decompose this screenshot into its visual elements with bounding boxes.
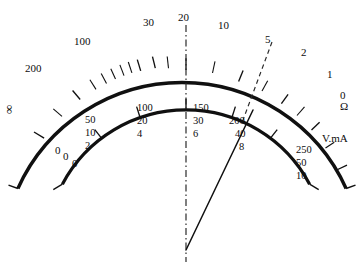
ohm-label-5: 5 <box>265 33 271 45</box>
vma-label-150: 150 <box>193 101 209 114</box>
ohm-label-100: 100 <box>74 35 91 47</box>
vma-label-10b: 10 <box>296 169 312 182</box>
vma-group-200: 200 40 8 <box>229 114 246 153</box>
gauge-drawing <box>0 0 362 269</box>
vma-label-4: 4 <box>137 127 153 140</box>
vma-label-0-bot: 0 <box>72 157 78 169</box>
ohm-label-2: 2 <box>301 46 307 58</box>
ohm-label-10: 10 <box>218 19 229 31</box>
vma-label-100: 100 <box>137 101 153 114</box>
vma-unit-label: V.mA <box>322 132 348 144</box>
vma-label-50: 50 <box>85 113 96 126</box>
vma-label-2: 2 <box>85 139 96 152</box>
vma-label-0-top: 0 <box>55 144 61 156</box>
vma-label-50b: 50 <box>296 156 312 169</box>
vma-label-40: 40 <box>229 127 246 140</box>
ohm-label-20: 20 <box>178 11 189 23</box>
ohm-label-200: 200 <box>25 62 42 74</box>
vma-group-150: 150 30 6 <box>193 101 209 140</box>
vma-label-6: 6 <box>193 127 209 140</box>
vma-label-10: 10 <box>85 126 96 139</box>
vma-label-0-mid: 0 <box>63 150 69 162</box>
vma-label-250: 250 <box>296 143 312 156</box>
vma-label-20: 20 <box>137 114 153 127</box>
multimeter-scale-face: ∞ 200 100 30 20 10 5 2 1 0 Ω 0 0 0 50 10… <box>0 0 362 269</box>
vma-group-100: 100 20 4 <box>137 101 153 140</box>
vma-label-200: 200 <box>229 114 246 127</box>
vma-group-250: 250 50 10 <box>296 143 312 182</box>
ohm-label-30: 30 <box>143 16 154 28</box>
ohm-unit-label: Ω <box>340 100 348 112</box>
ohm-label-infinity: ∞ <box>2 105 17 114</box>
vma-label-8: 8 <box>229 140 246 153</box>
ohm-label-1: 1 <box>327 68 333 80</box>
vma-group-50: 50 10 2 <box>85 113 96 152</box>
vma-label-30: 30 <box>193 114 209 127</box>
